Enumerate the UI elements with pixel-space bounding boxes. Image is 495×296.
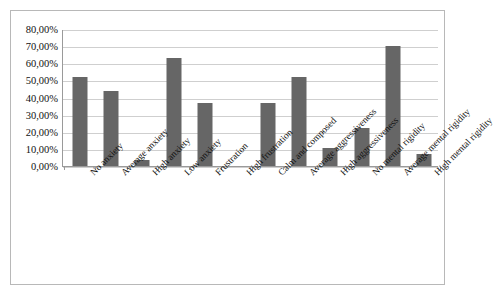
x-axis-tick-mark [64,166,65,170]
y-axis-tick-label: 60,00% [10,59,58,70]
y-axis-tick-label: 20,00% [10,128,58,139]
x-axis-category-label: High mental rigidity [433,116,495,178]
y-axis-tick-label: 30,00% [10,110,58,121]
y-axis-tick-label: 80,00% [10,25,58,36]
y-axis-tick-label: 50,00% [10,76,58,87]
bar-slot [64,30,95,166]
x-axis-labels-group: No anxietyAverage anxietyHigh anxietyLow… [63,171,439,281]
y-axis-tick-label: 40,00% [10,93,58,104]
y-axis-tick-label: 0,00% [10,162,58,173]
bar-chart-figure: 80,00%70,00%60,00%50,00%40,00%30,00%20,0… [10,10,445,285]
y-axis-tick-label: 10,00% [10,145,58,156]
y-axis-tick-label: 70,00% [10,42,58,53]
bar[interactable] [72,77,87,166]
